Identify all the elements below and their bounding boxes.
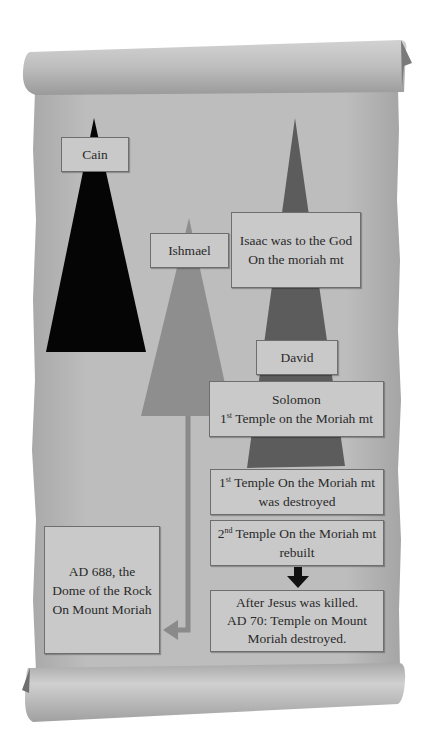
ad70-box: After Jesus was killed. AD 70: Temple on… <box>210 590 384 652</box>
solomon-line-2: 1st Temple on the Moriah mt <box>220 409 373 428</box>
scroll-bottom-curl <box>22 668 30 693</box>
dome-line-3: On Mount Moriah <box>53 600 152 619</box>
ad70-line-2: AD 70: Temple on Mount <box>227 612 367 630</box>
first-temple-line-1: 1st Temple On the Moriah mt <box>219 473 375 492</box>
solomon-box: Solomon 1st Temple on the Moriah mt <box>209 381 384 437</box>
ishmael-label: Ishmael <box>168 241 211 260</box>
second-temple-line-1: 2nd Temple On the Moriah mt <box>218 524 377 543</box>
first-temple-destroyed-box: 1st Temple On the Moriah mt was destroye… <box>210 469 384 515</box>
ad70-line-1: After Jesus was killed. <box>236 594 358 612</box>
solomon-line-1: Solomon <box>272 390 321 409</box>
dome-line-2: Dome of the Rock <box>52 581 151 600</box>
dome-line-1: AD 688, the <box>69 562 135 581</box>
isaac-line-2: On the moriah mt <box>248 250 344 269</box>
cain-label: Cain <box>82 145 108 164</box>
ad70-line-3: Moriah destroyed. <box>248 630 347 648</box>
second-temple-rebuilt-box: 2nd Temple On the Moriah mt rebuilt <box>210 520 384 566</box>
david-label-box: David <box>256 340 338 375</box>
first-temple-line-2: was destroyed <box>259 492 336 511</box>
scroll-top-curl <box>401 40 412 88</box>
ishmael-label-box: Ishmael <box>150 233 229 268</box>
second-temple-line-2: rebuilt <box>279 543 314 562</box>
david-label: David <box>281 348 314 367</box>
scroll-top-roll <box>23 40 406 95</box>
isaac-label-box: Isaac was to the God On the moriah mt <box>231 212 361 288</box>
rebuilt-to-ad70-arrow-shaft <box>294 567 302 577</box>
scroll-bottom-roll <box>25 663 405 722</box>
dome-of-the-rock-box: AD 688, the Dome of the Rock On Mount Mo… <box>44 526 160 654</box>
cain-label-box: Cain <box>61 137 129 172</box>
isaac-line-1: Isaac was to the God <box>240 231 352 250</box>
